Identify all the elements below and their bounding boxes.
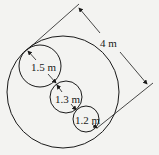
dimension-arrow-top <box>79 8 100 33</box>
arrow-1b <box>48 74 56 83</box>
label-4m: 4 m <box>100 37 117 49</box>
label-1-5m: 1.5 m <box>31 61 57 73</box>
label-1-3m: 1.3 m <box>55 93 81 105</box>
extension-line-top <box>27 4 79 50</box>
diagram-canvas: 4 m 1.5 m 1.3 m 1.2 m <box>0 0 159 155</box>
extension-line-bottom <box>97 83 153 128</box>
dimension-arrow-bottom <box>120 52 147 84</box>
label-1-2m: 1.2 m <box>75 114 101 126</box>
arrow-1 <box>28 51 36 60</box>
arrow-2 <box>57 85 62 92</box>
diagram-svg: 4 m 1.5 m 1.3 m 1.2 m <box>0 0 159 155</box>
